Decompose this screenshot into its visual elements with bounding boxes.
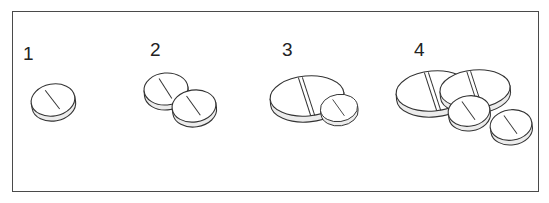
panel-4-tablets bbox=[394, 67, 534, 148]
tablet-illustrations bbox=[0, 0, 549, 203]
panel-2-tablets bbox=[143, 71, 219, 130]
panel-3-tablets bbox=[268, 73, 360, 128]
panel-1-tablets bbox=[29, 80, 79, 124]
